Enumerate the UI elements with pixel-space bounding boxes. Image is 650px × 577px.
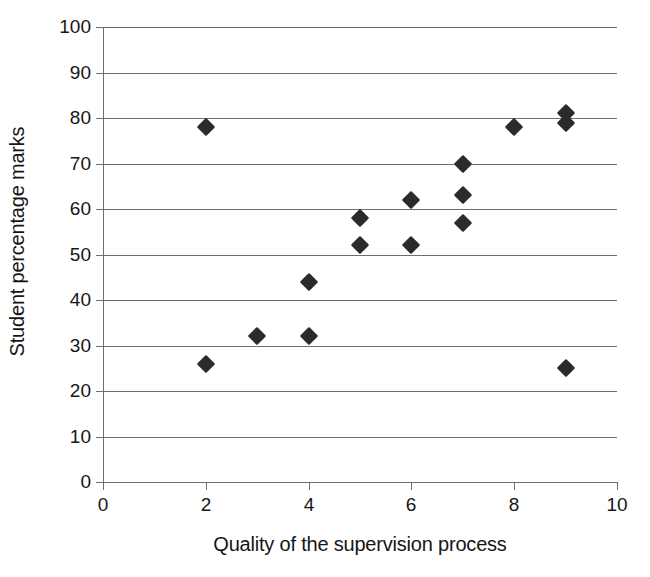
y-tick-label-100: 100	[59, 16, 91, 38]
y-tick-label-70: 70	[70, 153, 91, 175]
y-axis-title-text: Student percentage marks	[7, 126, 30, 356]
y-tick-label-10: 10	[70, 426, 91, 448]
y-tick-50	[96, 255, 103, 256]
data-point	[248, 327, 266, 345]
gridline-y-40	[103, 300, 617, 301]
y-tick-90	[96, 73, 103, 74]
data-point	[454, 213, 472, 231]
plot-area	[103, 27, 617, 482]
data-point	[351, 236, 369, 254]
x-tick-8	[514, 482, 515, 490]
gridline-y-50	[103, 255, 617, 256]
gridline-y-30	[103, 346, 617, 347]
y-tick-20	[96, 391, 103, 392]
gridline-y-70	[103, 164, 617, 165]
data-point	[351, 209, 369, 227]
y-tick-label-90: 90	[70, 62, 91, 84]
x-tick-label-0: 0	[98, 494, 109, 516]
x-tick-label-6: 6	[406, 494, 417, 516]
x-axis-title: Quality of the supervision process	[103, 533, 617, 556]
x-tick-label-4: 4	[304, 494, 315, 516]
x-tick-6	[411, 482, 412, 490]
gridline-y-10	[103, 437, 617, 438]
x-tick-4	[309, 482, 310, 490]
x-tick-2	[206, 482, 207, 490]
data-point	[299, 327, 317, 345]
gridline-y-0	[103, 482, 617, 483]
x-tick-label-8: 8	[509, 494, 520, 516]
y-tick-label-0: 0	[80, 471, 91, 493]
data-point	[402, 191, 420, 209]
y-tick-100	[96, 27, 103, 28]
y-tick-label-60: 60	[70, 198, 91, 220]
y-tick-10	[96, 437, 103, 438]
y-tick-70	[96, 164, 103, 165]
x-tick-0	[103, 482, 104, 490]
y-tick-label-30: 30	[70, 335, 91, 357]
y-tick-label-50: 50	[70, 244, 91, 266]
data-point	[505, 118, 523, 136]
y-tick-label-80: 80	[70, 107, 91, 129]
y-axis-title: Student percentage marks	[0, 0, 36, 482]
gridline-y-100	[103, 27, 617, 28]
data-point	[454, 186, 472, 204]
data-point	[299, 273, 317, 291]
gridline-y-80	[103, 118, 617, 119]
gridline-y-90	[103, 73, 617, 74]
y-tick-60	[96, 209, 103, 210]
data-point	[197, 118, 215, 136]
scatter-chart: Student percentage marks 010203040506070…	[0, 0, 650, 577]
data-point	[402, 236, 420, 254]
data-point	[454, 154, 472, 172]
x-tick-label-10: 10	[606, 494, 627, 516]
y-tick-40	[96, 300, 103, 301]
x-tick-label-2: 2	[201, 494, 212, 516]
y-tick-30	[96, 346, 103, 347]
x-tick-10	[617, 482, 618, 490]
y-tick-0	[96, 482, 103, 483]
y-tick-80	[96, 118, 103, 119]
data-point	[556, 359, 574, 377]
y-tick-label-40: 40	[70, 289, 91, 311]
y-tick-label-20: 20	[70, 380, 91, 402]
data-point	[197, 354, 215, 372]
gridline-y-20	[103, 391, 617, 392]
